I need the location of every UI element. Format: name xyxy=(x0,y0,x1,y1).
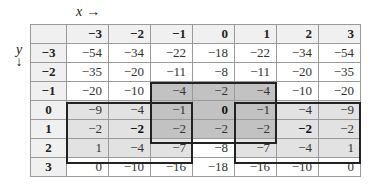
row-header: −1 xyxy=(31,82,67,101)
column-header: 0 xyxy=(193,25,235,44)
table-cell: −10 xyxy=(109,82,151,101)
table-cell: −7 xyxy=(151,139,193,158)
down-arrow-icon: ↓ xyxy=(12,56,26,68)
table-cell: −10 xyxy=(277,82,319,101)
table-row: −3 −54 −34 −22 −18 −22 −34 −54 xyxy=(31,44,361,63)
value-table: −3 −2 −1 0 1 2 3 −3 −54 −34 −22 −18 −22 … xyxy=(30,24,361,177)
column-header: −1 xyxy=(151,25,193,44)
table-cell: −10 xyxy=(277,158,319,177)
x-variable: x xyxy=(76,4,82,19)
table-cell: 0 xyxy=(67,158,109,177)
table-cell: −2 xyxy=(67,120,109,139)
table-cell: −35 xyxy=(67,63,109,82)
x-axis-label: x→ xyxy=(76,4,100,20)
table-cell: −2 xyxy=(151,120,193,139)
row-header: −3 xyxy=(31,44,67,63)
table-cell: −9 xyxy=(67,101,109,120)
column-header: −3 xyxy=(67,25,109,44)
table-cell: −4 xyxy=(109,101,151,120)
column-header: 3 xyxy=(319,25,361,44)
table-cell: −54 xyxy=(67,44,109,63)
table-cell: −4 xyxy=(277,101,319,120)
table-cell: −8 xyxy=(193,63,235,82)
table-cell: −34 xyxy=(277,44,319,63)
table-row: 2 1 −4 −7 −8 −7 −4 1 xyxy=(31,139,361,158)
table-row: 0 −9 −4 −1 0 −1 −4 −9 xyxy=(31,101,361,120)
table-cell: −18 xyxy=(193,158,235,177)
table-cell: −54 xyxy=(319,44,361,63)
table-cell: −35 xyxy=(319,63,361,82)
y-axis-label: y ↓ xyxy=(12,44,26,68)
table-cell: −2 xyxy=(109,120,151,139)
table-cell: −16 xyxy=(235,158,277,177)
table-cell: −1 xyxy=(151,101,193,120)
row-header: 2 xyxy=(31,139,67,158)
right-arrow-icon: → xyxy=(86,4,100,19)
table-cell: −18 xyxy=(193,44,235,63)
table-row: −1 −20 −10 −4 −2 −4 −10 −20 xyxy=(31,82,361,101)
table-cell: −2 xyxy=(235,120,277,139)
table-cell: −22 xyxy=(151,44,193,63)
table-cell: −4 xyxy=(277,139,319,158)
table-cell: −11 xyxy=(151,63,193,82)
table-cell: −11 xyxy=(235,63,277,82)
row-header: 1 xyxy=(31,120,67,139)
table-cell: −2 xyxy=(277,120,319,139)
table-cell: −10 xyxy=(109,158,151,177)
table-cell: 0 xyxy=(193,101,235,120)
table-cell: −2 xyxy=(193,120,235,139)
row-header: 0 xyxy=(31,101,67,120)
table-cell: −9 xyxy=(319,101,361,120)
row-header: −2 xyxy=(31,63,67,82)
table-cell: −34 xyxy=(109,44,151,63)
column-header: −2 xyxy=(109,25,151,44)
table-cell: −1 xyxy=(235,101,277,120)
table-row: 3 0 −10 −16 −18 −16 −10 0 xyxy=(31,158,361,177)
table-cell: −8 xyxy=(193,139,235,158)
row-header: 3 xyxy=(31,158,67,177)
table-cell: 0 xyxy=(319,158,361,177)
table-cell: −4 xyxy=(151,82,193,101)
table-cell: −16 xyxy=(151,158,193,177)
table-cell: −2 xyxy=(319,120,361,139)
table-cell: 1 xyxy=(67,139,109,158)
corner-cell xyxy=(31,25,67,44)
table-cell: −4 xyxy=(109,139,151,158)
column-header: 1 xyxy=(235,25,277,44)
table-cell: −20 xyxy=(319,82,361,101)
table-cell: −20 xyxy=(277,63,319,82)
table-cell: −7 xyxy=(235,139,277,158)
table-cell: −20 xyxy=(109,63,151,82)
column-header: 2 xyxy=(277,25,319,44)
table-cell: −22 xyxy=(235,44,277,63)
table-row: 1 −2 −2 −2 −2 −2 −2 −2 xyxy=(31,120,361,139)
table-cell: −4 xyxy=(235,82,277,101)
table-cell: −2 xyxy=(193,82,235,101)
table-cell: 1 xyxy=(319,139,361,158)
table-cell: −20 xyxy=(67,82,109,101)
table-row: −2 −35 −20 −11 −8 −11 −20 −35 xyxy=(31,63,361,82)
column-header-row: −3 −2 −1 0 1 2 3 xyxy=(31,25,361,44)
